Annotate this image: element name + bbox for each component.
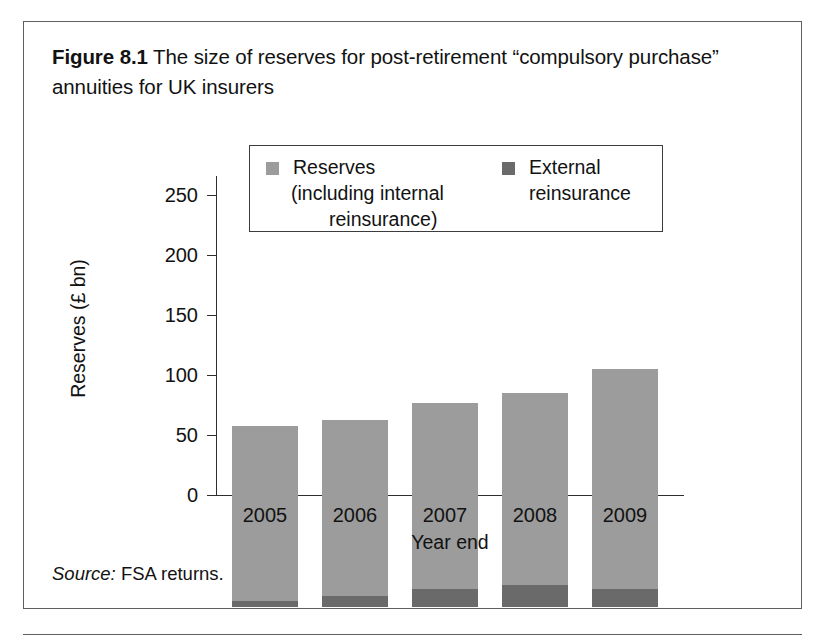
x-axis-title: Year end bbox=[216, 531, 684, 554]
source-label: Source: bbox=[52, 563, 116, 584]
y-axis-title: Reserves (£ bn) bbox=[67, 209, 90, 449]
legend-label-reserves-line3: reinsurance) bbox=[329, 206, 496, 232]
legend-label-external-reinsurance: External reinsurance bbox=[529, 154, 662, 206]
y-axis-line bbox=[216, 176, 217, 496]
figure-frame: Figure 8.1 The size of reserves for post… bbox=[23, 21, 802, 609]
bar-2007-external-reinsurance bbox=[412, 589, 478, 607]
source-value: FSA returns. bbox=[116, 563, 224, 584]
legend-entry-external-reinsurance: External reinsurance bbox=[502, 154, 662, 206]
y-tick-label-250: 250 bbox=[138, 185, 198, 205]
bar-2005-external-reinsurance bbox=[232, 601, 298, 607]
y-tick-label-0: 0 bbox=[138, 485, 198, 505]
bar-2007-reserves bbox=[412, 403, 478, 589]
figure-source: Source: FSA returns. bbox=[52, 562, 224, 586]
legend-label-external-line1: External bbox=[529, 156, 601, 178]
legend-label-reserves-line2: (including internal bbox=[291, 180, 496, 206]
legend-swatch-reserves-icon bbox=[266, 162, 279, 175]
chart-plot-area: 0 50 100 150 200 250 bbox=[24, 22, 801, 607]
bar-2006-external-reinsurance bbox=[322, 596, 388, 607]
x-tick-label-2009: 2009 bbox=[570, 503, 680, 527]
legend-label-external-line2: reinsurance bbox=[529, 180, 662, 206]
legend-label-reserves: Reserves (including internal reinsurance… bbox=[293, 154, 496, 232]
legend-swatch-external-reinsurance-icon bbox=[502, 162, 515, 175]
bar-2009-reserves bbox=[592, 369, 658, 589]
y-tick-label-50: 50 bbox=[138, 425, 198, 445]
figure-page: Figure 8.1 The size of reserves for post… bbox=[0, 0, 824, 643]
bar-2009-external-reinsurance bbox=[592, 589, 658, 607]
next-figure-top-rule bbox=[23, 634, 802, 635]
y-tick-label-150: 150 bbox=[138, 305, 198, 325]
y-tick-label-200: 200 bbox=[138, 245, 198, 265]
bar-2008-external-reinsurance bbox=[502, 585, 568, 607]
bar-2008-reserves bbox=[502, 393, 568, 585]
legend-entry-reserves: Reserves (including internal reinsurance… bbox=[266, 154, 496, 232]
y-tick-label-100: 100 bbox=[138, 365, 198, 385]
legend-label-reserves-line1: Reserves bbox=[293, 156, 375, 178]
chart-legend: Reserves (including internal reinsurance… bbox=[249, 145, 663, 232]
